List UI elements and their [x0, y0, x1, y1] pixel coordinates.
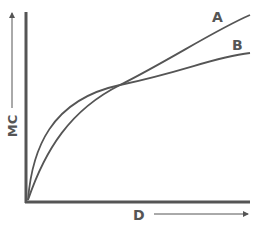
- series-a-line: [28, 15, 250, 200]
- diagram: MC D A B: [0, 0, 257, 226]
- y-axis-label: MC: [5, 115, 20, 137]
- series-b-label: B: [232, 37, 243, 53]
- x-axis-label: D: [133, 207, 145, 223]
- series-a-label: A: [212, 9, 223, 25]
